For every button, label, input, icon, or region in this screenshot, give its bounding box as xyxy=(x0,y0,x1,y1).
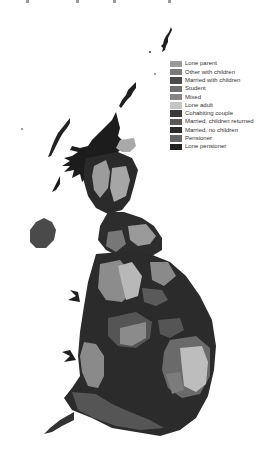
northern-ireland xyxy=(30,218,56,248)
legend-item: Married with children xyxy=(170,77,274,85)
legend-swatch xyxy=(170,94,182,101)
legend-swatch xyxy=(170,119,182,126)
legend-swatch xyxy=(170,144,182,151)
legend-label: Mixed xyxy=(185,94,201,101)
legend-label: Student xyxy=(185,85,206,92)
legend-label: Lone parent xyxy=(185,60,217,67)
orkney-islands xyxy=(119,82,136,108)
legend-label: Married, no children xyxy=(185,127,238,134)
legend-item: Other with children xyxy=(170,68,274,76)
legend-swatch xyxy=(170,61,182,68)
legend-item: Cohabiting couple xyxy=(170,110,274,118)
legend-item: Student xyxy=(170,85,274,93)
legend-item: Mixed xyxy=(170,93,274,101)
legend-swatch xyxy=(170,110,182,117)
legend-item: Lone pensioner xyxy=(170,143,274,151)
legend-label: Lone pensioner xyxy=(185,143,226,150)
legend-swatch xyxy=(170,77,182,84)
legend-item: Married, no children xyxy=(170,126,274,134)
legend-label: Pensioner xyxy=(185,135,212,142)
south-west xyxy=(44,412,74,434)
legend-item: Pensioner xyxy=(170,135,274,143)
outer-hebrides xyxy=(21,118,70,157)
legend-swatch xyxy=(170,69,182,76)
legend-swatch xyxy=(170,127,182,134)
england-main xyxy=(64,252,216,436)
coastal-spikes xyxy=(62,290,80,362)
legend-item: Lone adult xyxy=(170,101,274,109)
legend-label: Cohabiting couple xyxy=(185,110,233,117)
legend-swatch xyxy=(170,135,182,142)
legend-label: Married with children xyxy=(185,77,240,84)
legend-swatch xyxy=(170,102,182,109)
legend-item: Married, children returned xyxy=(170,118,274,126)
shetland-islands xyxy=(149,27,172,75)
northern-england xyxy=(98,212,162,258)
map-legend: Lone parent Other with children Married … xyxy=(170,60,274,151)
legend-label: Lone adult xyxy=(185,102,213,109)
legend-item: Lone parent xyxy=(170,60,274,68)
legend-label: Other with children xyxy=(185,69,235,76)
legend-label: Married, children returned xyxy=(185,118,254,125)
legend-swatch xyxy=(170,86,182,93)
